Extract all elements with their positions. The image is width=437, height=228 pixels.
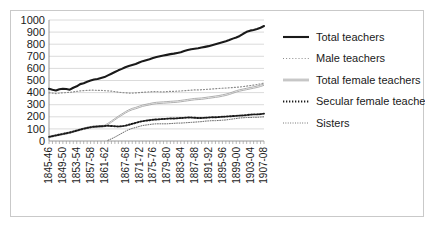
svg-text:1871-72: 1871-72 bbox=[134, 147, 145, 184]
legend-item-sisters[interactable]: Sisters bbox=[283, 117, 350, 129]
svg-text:1879-80: 1879-80 bbox=[161, 147, 172, 184]
svg-text:1903-04: 1903-04 bbox=[245, 147, 256, 184]
svg-text:300: 300 bbox=[27, 98, 45, 110]
svg-text:1875-76: 1875-76 bbox=[147, 147, 158, 184]
chart-legend: Total teachersMale teachersTotal female … bbox=[283, 31, 425, 129]
svg-text:900: 900 bbox=[27, 26, 45, 38]
svg-text:1867-68: 1867-68 bbox=[120, 147, 131, 184]
svg-text:1861-62: 1861-62 bbox=[99, 147, 110, 184]
legend-item-male-teachers[interactable]: Male teachers bbox=[283, 52, 386, 64]
svg-text:100: 100 bbox=[27, 123, 45, 135]
legend-label: Secular female teachers bbox=[316, 95, 425, 107]
svg-text:1845-46: 1845-46 bbox=[43, 147, 54, 184]
legend-item-secular-female-teachers[interactable]: Secular female teachers bbox=[283, 95, 425, 107]
legend-label: Sisters bbox=[316, 117, 350, 129]
line-chart: 01002003004005006007008009001000 1845-46… bbox=[11, 11, 425, 218]
legend-item-total-teachers[interactable]: Total teachers bbox=[283, 31, 385, 43]
chart-figure: 01002003004005006007008009001000 1845-46… bbox=[10, 10, 424, 217]
svg-text:1849-50: 1849-50 bbox=[57, 147, 68, 184]
legend-label: Total teachers bbox=[316, 31, 385, 43]
svg-text:1895-96: 1895-96 bbox=[217, 147, 228, 184]
chart-svg: 01002003004005006007008009001000 1845-46… bbox=[11, 11, 425, 218]
svg-text:0: 0 bbox=[39, 135, 45, 147]
svg-text:1853-54: 1853-54 bbox=[71, 147, 82, 184]
svg-text:200: 200 bbox=[27, 110, 45, 122]
legend-label: Male teachers bbox=[316, 52, 386, 64]
svg-text:600: 600 bbox=[27, 62, 45, 74]
svg-text:1883-84: 1883-84 bbox=[175, 147, 186, 184]
svg-text:700: 700 bbox=[27, 50, 45, 62]
x-axis-tick-labels: 1845-461849-501853-541857-581861-621867-… bbox=[43, 147, 269, 184]
svg-text:1857-58: 1857-58 bbox=[85, 147, 96, 184]
svg-text:1907-08: 1907-08 bbox=[258, 147, 269, 184]
svg-text:500: 500 bbox=[27, 74, 45, 86]
svg-text:800: 800 bbox=[27, 38, 45, 50]
data-series-group bbox=[49, 26, 264, 140]
legend-label: Total female teachers bbox=[316, 74, 421, 86]
svg-text:1000: 1000 bbox=[21, 14, 45, 26]
svg-text:400: 400 bbox=[27, 86, 45, 98]
legend-item-total-female-teachers[interactable]: Total female teachers bbox=[283, 74, 421, 86]
svg-text:1891-92: 1891-92 bbox=[203, 147, 214, 184]
svg-text:1899-00: 1899-00 bbox=[231, 147, 242, 184]
y-axis-tick-labels: 01002003004005006007008009001000 bbox=[21, 14, 45, 147]
svg-text:1887-88: 1887-88 bbox=[189, 147, 200, 184]
